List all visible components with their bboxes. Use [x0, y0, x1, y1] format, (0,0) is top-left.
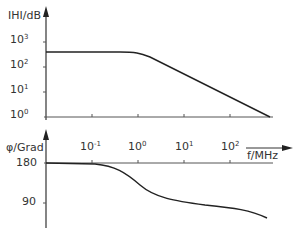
phase-tick-label: 180: [16, 156, 37, 169]
mag-axis-label: IHI/dB: [8, 9, 41, 22]
freq-tick-label: 101: [175, 140, 193, 153]
freq-tick-label: 100: [128, 140, 146, 153]
freq-axis-label: f/MHz: [247, 149, 278, 162]
bode-plot: IHI/dB 103 102 101 100 10-1 100 101 102 …: [0, 0, 293, 229]
phase-y-arrow-icon: [43, 129, 49, 140]
freq-arrow-icon: [282, 145, 293, 151]
mag-tick-label: 100: [10, 108, 28, 121]
magnitude-curve: [46, 52, 270, 117]
freq-tick-label: 10-1: [80, 140, 101, 153]
freq-tick-label: 102: [221, 140, 239, 153]
mag-tick-label: 101: [10, 83, 28, 96]
mag-tick-label: 102: [10, 58, 28, 71]
plot-graphics: [0, 0, 293, 229]
phase-curve: [46, 163, 267, 218]
mag-y-arrow-icon: [43, 6, 49, 17]
mag-tick-label: 103: [10, 33, 28, 46]
phase-axis-label: φ/Grad: [6, 141, 44, 154]
phase-tick-label: 90: [22, 195, 36, 208]
